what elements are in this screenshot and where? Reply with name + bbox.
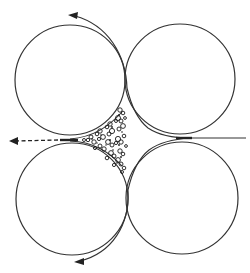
circle-top-left [15, 25, 125, 135]
top-flow [68, 12, 127, 88]
circle-bottom-right [126, 142, 238, 254]
arrow-left-icon [74, 258, 84, 265]
right-inlet [127, 88, 246, 190]
arrow-left-icon [68, 12, 78, 19]
arrow-left-icon [9, 137, 18, 145]
circle-bottom-left [16, 143, 128, 255]
particle-cluster [83, 108, 128, 174]
circle-top-right [125, 24, 235, 134]
four-roll-diagram [0, 0, 250, 273]
